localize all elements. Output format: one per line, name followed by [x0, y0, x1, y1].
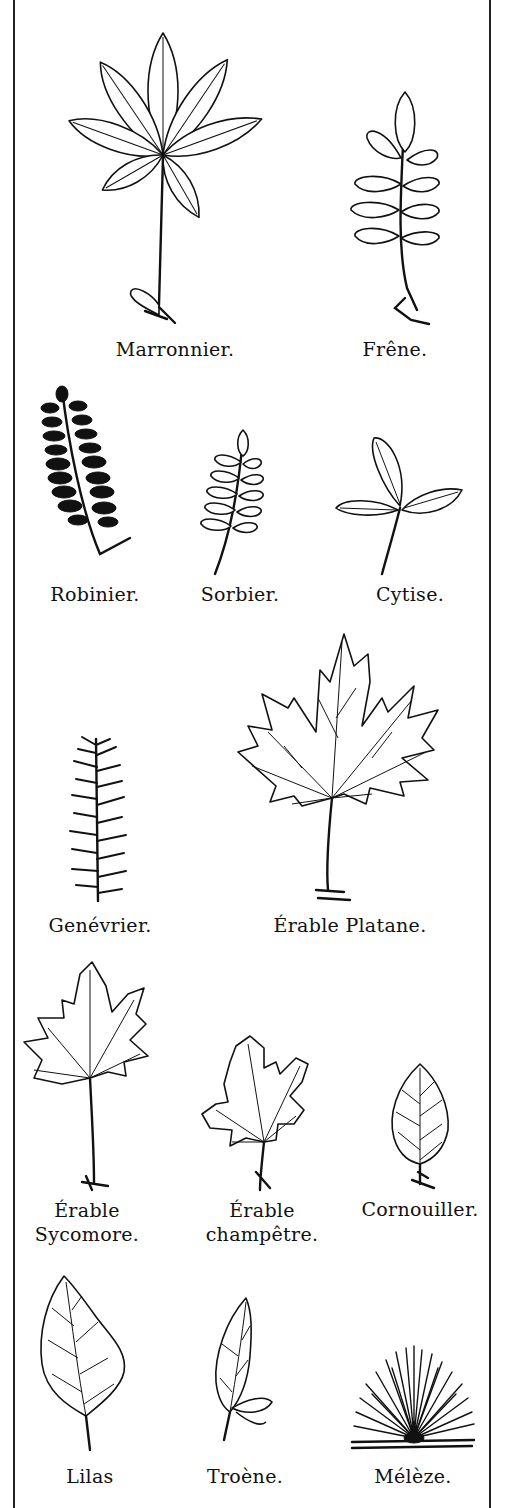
erable-champetre-leaf-illustration [200, 1032, 312, 1192]
frene-label: Frêne. [340, 338, 450, 360]
erable-champetre-label: Érable champêtre. [192, 1198, 332, 1246]
cytise-label: Cytise. [360, 583, 460, 605]
sorbier-label: Sorbier. [190, 583, 290, 605]
marronnier-label: Marronnier. [100, 338, 250, 360]
erable-sycomore-leaf-illustration [22, 960, 152, 1195]
marronnier-leaf-illustration [55, 15, 275, 325]
erable-champetre-label-line1: Érable [192, 1198, 332, 1222]
robinier-label: Robinier. [35, 583, 155, 605]
cornouiller-leaf-illustration [386, 1060, 452, 1195]
frene-leaf-illustration [345, 88, 445, 328]
erable-platane-label: Érable Platane. [255, 914, 445, 936]
cytise-leaf-illustration [332, 432, 467, 577]
right-border-line [489, 0, 491, 1508]
left-border-line [13, 0, 15, 1508]
robinier-leaf-illustration [38, 382, 138, 572]
genevrier-label: Genévrier. [40, 914, 160, 936]
cornouiller-label: Cornouiller. [350, 1198, 490, 1220]
erable-sycomore-label-line2: Sycomore. [22, 1222, 152, 1246]
meleze-leaf-illustration [352, 1346, 477, 1456]
erable-sycomore-label: Érable Sycomore. [22, 1198, 152, 1246]
lilas-label: Lilas [40, 1465, 140, 1487]
troene-label: Troène. [190, 1465, 300, 1487]
erable-sycomore-label-line1: Érable [22, 1198, 152, 1222]
erable-platane-leaf-illustration [232, 628, 442, 906]
erable-champetre-label-line2: champêtre. [192, 1222, 332, 1246]
troene-leaf-illustration [206, 1296, 276, 1446]
meleze-label: Mélèze. [358, 1465, 468, 1487]
genevrier-leaf-illustration [62, 735, 132, 905]
sorbier-leaf-illustration [195, 428, 265, 578]
lilas-leaf-illustration [38, 1274, 128, 1454]
